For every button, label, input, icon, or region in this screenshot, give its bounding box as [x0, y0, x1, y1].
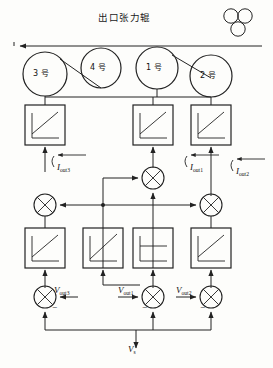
pinch-rolls-group	[224, 9, 252, 36]
voltage-label-out2-sub: out2	[182, 290, 192, 296]
roller-shafts	[45, 89, 211, 105]
current-label-out2: Iout2	[236, 167, 249, 176]
sum-mid-3-group	[34, 194, 56, 216]
roller-label-2: 2 号	[200, 72, 216, 80]
lower-blocks-group	[25, 228, 231, 268]
strip-path-group	[14, 42, 262, 46]
voltage-label-out1-sub: out1	[124, 290, 134, 296]
current-label-out1-sub: out1	[193, 167, 203, 173]
voltage-label-out3-sub: out3	[60, 290, 70, 296]
sum-current-1-inputs	[103, 178, 153, 205]
sum-current-1-group	[142, 167, 164, 189]
current-label-out3-sub: out3	[60, 167, 70, 173]
source-label-vs: Vs	[128, 345, 136, 354]
upper-blocks-group	[25, 105, 231, 145]
block-diagram-svg	[0, 0, 273, 368]
mid-sum-outputs	[45, 216, 211, 228]
distribution-bus	[60, 203, 196, 207]
minus-sign-v3: −	[52, 303, 57, 312]
voltage-label-out3: Vout3	[54, 286, 69, 295]
source-label-vs-base: V	[128, 344, 134, 354]
minus-sign-v2: −	[200, 303, 205, 312]
voltage-label-out1-base: V	[118, 285, 124, 295]
voltage-label-out2-base: V	[176, 285, 182, 295]
diagram-canvas: 出口张力辊 3 号 4 号 1 号 2 号 Iout3 Iout1 Iout2 …	[0, 0, 273, 368]
roller-label-1: 1 号	[146, 64, 162, 72]
current-label-out1: Iout1	[190, 163, 203, 172]
current-label-out3: Iout3	[57, 163, 70, 172]
minus-sign-v1: −	[142, 303, 147, 312]
roller-label-4: 4 号	[90, 64, 106, 72]
upper-blocks-curves	[32, 112, 225, 138]
voltage-label-out2: Vout2	[176, 286, 191, 295]
lower-blocks-curves	[32, 234, 225, 261]
voltage-label-out1: Vout1	[118, 286, 133, 295]
source-label-vs-sub: s	[134, 349, 136, 355]
voltage-label-out3-base: V	[54, 285, 60, 295]
sum-mid-2-group	[200, 194, 222, 216]
bus-risers	[103, 205, 153, 268]
vs-rail-group	[45, 312, 211, 348]
diagram-title: 出口张力辊	[98, 13, 151, 23]
current-label-out2-sub: out2	[239, 171, 249, 177]
roller-label-3: 3 号	[33, 70, 49, 78]
